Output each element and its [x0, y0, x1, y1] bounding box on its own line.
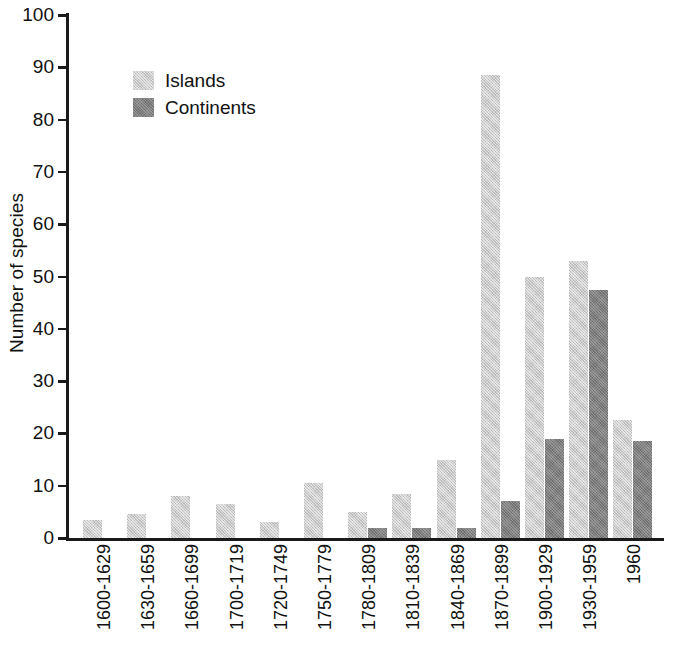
- bar-continents-1960: [633, 441, 652, 538]
- bar-continents-1780-1809: [368, 528, 387, 538]
- x-axis-tick-label-text: 1960: [625, 544, 643, 584]
- bar-islands-1630-1659: [127, 514, 146, 538]
- y-axis-tick-label: 40: [8, 319, 54, 338]
- y-axis-tick-labels: 0102030405060708090100: [0, 0, 54, 560]
- bar-islands-1870-1899: [481, 75, 500, 538]
- x-axis-tick-label: 1600-1629: [96, 544, 112, 654]
- bar-continents-1840-1869: [457, 528, 476, 538]
- y-axis-tick-label: 30: [8, 371, 54, 390]
- bar-continents-1930-1959: [589, 290, 608, 538]
- x-axis-tick-label-text: 1630-1659: [139, 544, 157, 630]
- bar-islands-1660-1699: [171, 496, 190, 538]
- bar-islands-1930-1959: [569, 261, 588, 538]
- bar-continents-1900-1929: [545, 439, 564, 538]
- x-axis-tick-label-text: 1700-1719: [228, 544, 246, 630]
- y-axis-tick-label: 70: [8, 162, 54, 181]
- y-axis-tick-label: 20: [8, 423, 54, 442]
- x-axis-tick-label: 1660-1699: [184, 544, 200, 654]
- bar-continents-1810-1839: [412, 528, 431, 538]
- bar-islands-1960: [613, 420, 632, 538]
- bar-islands-1810-1839: [392, 494, 411, 538]
- legend-label-continents: Continents: [165, 98, 256, 117]
- x-axis-tick-label-text: 1720-1749: [272, 544, 290, 630]
- x-axis-tick-label: 1700-1719: [229, 544, 245, 654]
- bar-islands-1780-1809: [348, 512, 367, 538]
- bar-islands-1840-1869: [437, 460, 456, 538]
- x-axis-tick-label-text: 1840-1869: [449, 544, 467, 630]
- legend-item-islands: Islands: [133, 68, 323, 93]
- x-axis-tick-label-text: 1660-1699: [183, 544, 201, 630]
- legend-item-continents: Continents: [133, 95, 323, 120]
- x-axis-tick-label: 1840-1869: [450, 544, 466, 654]
- x-axis-tick-label-text: 1900-1929: [537, 544, 555, 630]
- x-axis-tick-label-text: 1930-1959: [581, 544, 599, 630]
- x-axis-tick-label-text: 1870-1899: [493, 544, 511, 630]
- bar-islands-1720-1749: [260, 522, 279, 538]
- x-axis-tick-label: 1630-1659: [140, 544, 156, 654]
- y-axis-tick-label: 50: [8, 267, 54, 286]
- x-axis-tick-label-text: 1600-1629: [95, 544, 113, 630]
- x-axis-tick-label: 1900-1929: [538, 544, 554, 654]
- y-axis-tick-label: 0: [8, 528, 54, 547]
- y-axis-tick-label: 100: [8, 5, 54, 24]
- x-axis-tick-label-text: 1780-1809: [360, 544, 378, 630]
- x-axis-tick-label: 1810-1839: [405, 544, 421, 654]
- x-axis-tick-label-text: 1750-1779: [316, 544, 334, 630]
- bar-islands-1700-1719: [216, 504, 235, 538]
- y-axis-tick-label: 60: [8, 214, 54, 233]
- bar-islands-1600-1629: [83, 520, 102, 538]
- x-axis-tick-label: 1720-1749: [273, 544, 289, 654]
- x-axis-tick-label: 1960: [626, 544, 642, 654]
- x-axis-tick-label: 1780-1809: [361, 544, 377, 654]
- x-axis-tick-labels: 1600-16291630-16591660-16991700-17191720…: [69, 544, 669, 657]
- chart-legend: IslandsContinents: [133, 68, 323, 122]
- legend-label-islands: Islands: [165, 71, 225, 90]
- x-axis-tick-label: 1750-1779: [317, 544, 333, 654]
- legend-swatch-continents: [133, 98, 154, 117]
- y-axis-tick-label: 10: [8, 476, 54, 495]
- x-axis-tick-label: 1870-1899: [494, 544, 510, 654]
- bar-continents-1870-1899: [501, 501, 520, 538]
- bar-islands-1900-1929: [525, 277, 544, 539]
- x-axis-tick-label-text: 1810-1839: [404, 544, 422, 630]
- y-axis-tick-label: 90: [8, 57, 54, 76]
- legend-swatch-islands: [133, 71, 154, 90]
- bar-chart-figure: Number of species 0102030405060708090100…: [0, 0, 679, 657]
- bar-islands-1750-1779: [304, 483, 323, 538]
- x-axis-tick-label: 1930-1959: [582, 544, 598, 654]
- x-axis-line: [66, 538, 664, 541]
- y-axis-tick-label: 80: [8, 110, 54, 129]
